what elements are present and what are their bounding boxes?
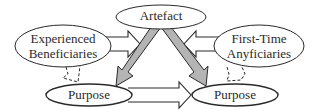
node-experienced-line2: Beneficiaries (18, 47, 108, 61)
node-firsttime-line2: Anyficiaries (214, 47, 304, 61)
artefact-purpose-diagram: Artefact Experienced Beneficiaries First… (0, 0, 319, 110)
arrow-purpose-to-purpose (128, 82, 191, 108)
node-firsttime-line1: First-Time (214, 32, 304, 46)
node-purpose-right-label: Purpose (195, 88, 275, 102)
node-experienced-line1: Experienced (18, 32, 108, 46)
gray-arrow-artefact-to-purpose-right (161, 27, 208, 86)
dashed-link-experienced-purpose (63, 66, 80, 82)
node-artefact-label: Artefact (121, 9, 201, 23)
gray-arrow-artefact-to-purpose-left (116, 27, 161, 86)
dashed-link-firsttime-purpose (227, 67, 245, 81)
node-purpose-left-label: Purpose (49, 88, 129, 102)
